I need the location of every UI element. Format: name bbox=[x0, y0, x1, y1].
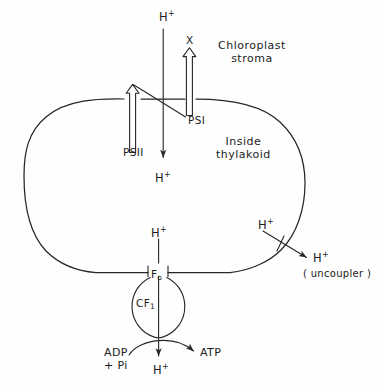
electron-transfer-line bbox=[134, 85, 186, 117]
proton-label-stroma: H+ bbox=[159, 9, 175, 24]
inside-thylakoid-line2: thylakoid bbox=[216, 149, 271, 162]
psi-label: PSI bbox=[188, 114, 205, 126]
proton-label-synthase-exit: H+ bbox=[153, 362, 169, 377]
proton-label-uncoupler-target: H+ bbox=[313, 250, 329, 265]
cf1-head-label: CF1 bbox=[136, 297, 155, 310]
electron-acceptor-label: X bbox=[186, 34, 194, 46]
uncoupler-leak-arrow bbox=[263, 231, 307, 258]
atp-label: ATP bbox=[200, 347, 221, 360]
figure-root: H+ X Chloroplast stroma PSI PSII Inside … bbox=[0, 0, 379, 388]
thylakoid-membrane-outline bbox=[24, 99, 305, 273]
adp-pi-label: ADP + Pi bbox=[104, 347, 128, 373]
psii-label: PSII bbox=[123, 146, 144, 158]
phosphorylation-arc bbox=[129, 340, 194, 355]
chloroplast-stroma-label: Chloroplast stroma bbox=[218, 40, 286, 66]
proton-label-lumen-lower: H+ bbox=[151, 225, 167, 240]
psii-complex bbox=[126, 84, 139, 152]
chloroplast-stroma-line2: stroma bbox=[218, 53, 286, 66]
proton-label-lumen-upper: H+ bbox=[155, 170, 171, 185]
fo-channel-label: Fo bbox=[151, 268, 162, 281]
uncoupler-note: ( uncoupler ) bbox=[303, 268, 371, 280]
diagram-canvas bbox=[0, 0, 379, 388]
inside-thylakoid-label: Inside thylakoid bbox=[216, 136, 271, 162]
pi-label: + Pi bbox=[104, 360, 128, 373]
psi-complex bbox=[183, 48, 196, 116]
proton-label-uncoupler-source: H+ bbox=[258, 217, 274, 232]
